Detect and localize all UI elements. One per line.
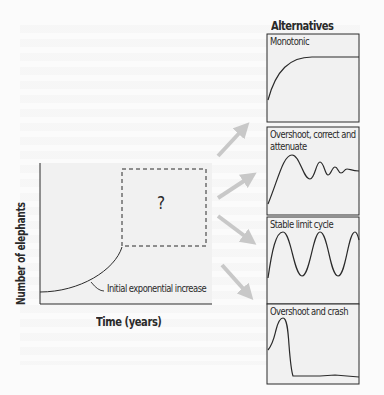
curve-annotation: Initial exponential increase (107, 282, 206, 295)
alternatives-title: Alternatives (271, 18, 333, 33)
panel-label-monotonic: Monotonic (270, 35, 309, 48)
diagram-canvas (0, 0, 384, 395)
y-axis-label: Number of elephants (14, 202, 28, 305)
unknown-marker: ? (157, 193, 165, 213)
panel-label-overshoot-crash: Overshoot and crash (270, 305, 348, 318)
panel-label-overshoot-attenuate-2: attenuate (270, 140, 307, 153)
arrows (218, 128, 250, 294)
panel-label-limit-cycle: Stable limit cycle (270, 218, 333, 231)
x-axis-label: Time (years) (96, 314, 161, 329)
